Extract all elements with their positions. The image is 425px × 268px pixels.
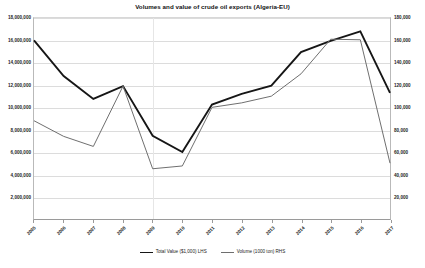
legend-swatch	[221, 252, 234, 253]
x-axis-tick-mark	[242, 220, 243, 223]
y-axis-right-tick-label: 20,000	[394, 195, 408, 200]
y-axis-left-tick-label: 2,000,000	[11, 195, 31, 200]
legend-item[interactable]: Total Value ($1,000) LHS	[140, 249, 207, 255]
y-axis-right-tick-label: 140,000	[394, 60, 411, 65]
x-axis-tick-mark	[361, 220, 362, 223]
x-axis-tick-label: 2012	[235, 225, 246, 236]
x-axis-tick-mark	[152, 220, 153, 223]
y-axis-right-tick-label: 100,000	[394, 105, 411, 110]
y-axis-right: 180,000160,000140,000120,000100,00080,00…	[394, 17, 425, 220]
series-line	[34, 31, 390, 152]
x-axis-tick-mark	[212, 220, 213, 223]
legend-item[interactable]: Volume (1000 ton) RHS	[221, 249, 286, 255]
x-axis: 2005200620072008200920102011201220132014…	[33, 220, 391, 244]
x-axis-tick-label: 2005	[26, 225, 37, 236]
x-axis-tick-label: 2017	[384, 225, 395, 236]
chart-container: Volumes and value of crude oil exports (…	[0, 0, 425, 268]
x-axis-tick-label: 2015	[324, 225, 335, 236]
y-axis-left-tick-label: 10,000,000	[8, 105, 31, 110]
x-axis-tick-label: 2007	[86, 225, 97, 236]
x-axis-tick-mark	[391, 220, 392, 223]
legend-label: Volume (1000 ton) RHS	[237, 249, 286, 255]
legend-label: Total Value ($1,000) LHS	[156, 249, 207, 255]
x-axis-tick-label: 2013	[265, 225, 276, 236]
y-axis-left-tick-label: 6,000,000	[11, 150, 31, 155]
x-axis-tick-mark	[33, 220, 34, 223]
y-axis-right-tick-label: 160,000	[394, 37, 411, 42]
x-axis-tick-label: 2010	[175, 225, 186, 236]
legend-swatch	[140, 252, 153, 253]
x-axis-tick-label: 2014	[294, 225, 305, 236]
y-axis-left: 18,000,00016,000,00014,000,00012,000,000…	[0, 17, 31, 220]
plot-area	[33, 17, 391, 220]
chart-title: Volumes and value of crude oil exports (…	[0, 3, 425, 11]
x-axis-tick-label: 2008	[115, 225, 126, 236]
x-axis-tick-mark	[182, 220, 183, 223]
x-axis-tick-mark	[272, 220, 273, 223]
x-axis-tick-mark	[63, 220, 64, 223]
y-axis-left-tick-label: 16,000,000	[8, 37, 31, 42]
series-lines	[34, 18, 390, 219]
y-axis-left-tick-label: 18,000,000	[8, 15, 31, 20]
y-axis-right-tick-label: 40,000	[394, 172, 408, 177]
x-axis-tick-mark	[123, 220, 124, 223]
y-axis-left-tick-label: 4,000,000	[11, 172, 31, 177]
y-axis-right-tick-label: 80,000	[394, 127, 408, 132]
y-axis-right-tick-label: 120,000	[394, 82, 411, 87]
y-axis-right-tick-label: 180,000	[394, 15, 411, 20]
x-axis-tick-label: 2016	[354, 225, 365, 236]
x-axis-tick-mark	[302, 220, 303, 223]
y-axis-left-tick-label: 12,000,000	[8, 82, 31, 87]
x-axis-tick-label: 2011	[205, 225, 216, 236]
y-axis-left-tick-label: 8,000,000	[11, 127, 31, 132]
x-axis-tick-mark	[93, 220, 94, 223]
chart-legend: Total Value ($1,000) LHSVolume (1000 ton…	[0, 249, 425, 255]
x-axis-tick-label: 2006	[56, 225, 67, 236]
x-axis-tick-mark	[331, 220, 332, 223]
x-axis-tick-label: 2009	[145, 225, 156, 236]
y-axis-right-tick-label: 60,000	[394, 150, 408, 155]
y-axis-left-tick-label: 14,000,000	[8, 60, 31, 65]
